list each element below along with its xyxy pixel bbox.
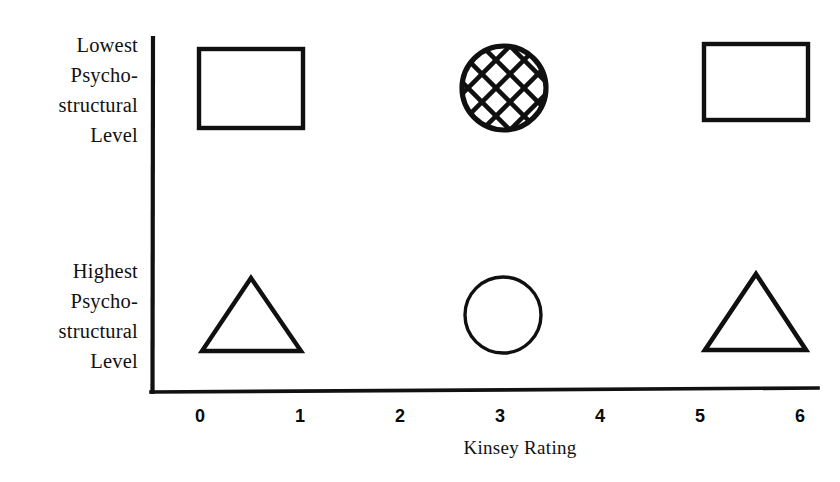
marker-triangle-kinsey-5-6 [705,274,806,350]
chart-axes [151,38,818,392]
chart-figure: Lowest Psycho- structural Level Highest … [0,0,840,482]
x-tick-label-1: 1 [280,406,320,427]
marker-hatched-circle-kinsey-3 [440,12,600,164]
y-axis-label-lowest-line4: Level [2,120,138,150]
y-axis-label-highest-line4: Level [2,346,138,376]
x-tick-label-3: 3 [480,406,520,427]
y-axis-label-lowest-line2: Psycho- [2,60,138,90]
y-axis-label-lowest-line3: structural [2,90,138,120]
x-axis-line [151,388,818,392]
y-axis-label-highest-line3: structural [2,316,138,346]
marker-group-lowest [199,12,808,164]
y-axis-label-highest-line1: Highest [2,256,138,286]
marker-triangle-kinsey-0-1 [202,278,301,351]
x-tick-label-4: 4 [580,406,620,427]
y-axis-label-lowest-line1: Lowest [2,30,138,60]
y-axis-label-highest: Highest Psycho- structural Level [2,256,138,376]
y-axis-label-lowest: Lowest Psycho- structural Level [2,30,138,150]
x-tick-label-0: 0 [180,406,220,427]
marker-rectangle-kinsey-0-1 [199,49,303,128]
marker-rectangle-kinsey-5-6 [704,44,808,120]
x-axis-title: Kinsey Rating [420,437,620,459]
x-tick-label-5: 5 [680,406,720,427]
marker-group-highest [202,274,806,353]
x-tick-label-6: 6 [780,406,820,427]
y-axis-line [153,38,154,392]
x-tick-label-2: 2 [380,406,420,427]
marker-open-circle-kinsey-3 [465,277,541,353]
y-axis-label-highest-line2: Psycho- [2,286,138,316]
